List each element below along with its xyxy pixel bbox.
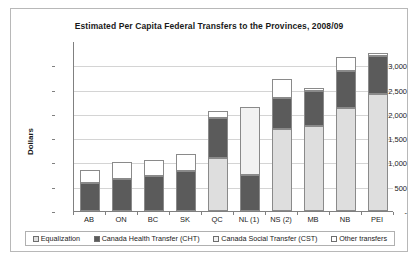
bar-column[interactable]	[336, 41, 356, 211]
bar-segment[interactable]	[240, 107, 260, 175]
bar-segment[interactable]	[240, 175, 260, 211]
bar-segment[interactable]	[144, 176, 164, 211]
x-axis-tick-mark	[105, 212, 106, 215]
bar-segment[interactable]	[208, 111, 228, 118]
y-axis-tick-label: 500	[373, 183, 407, 192]
y-axis-tick-label: 3,000	[373, 62, 407, 71]
x-axis-tick-mark	[297, 212, 298, 215]
bar-segment[interactable]	[176, 171, 196, 211]
y-axis-tick-mark	[52, 139, 55, 140]
legend-item[interactable]: Other transfers	[331, 234, 387, 243]
y-axis-tick-mark	[52, 163, 55, 164]
bar-segment[interactable]	[336, 57, 356, 71]
bar-segment[interactable]	[112, 162, 132, 179]
bar-segment[interactable]	[304, 88, 324, 91]
bar-column[interactable]	[112, 41, 132, 211]
bar-segment[interactable]	[112, 179, 132, 211]
bar-segment[interactable]	[272, 98, 292, 129]
x-axis-tick-mark	[329, 212, 330, 215]
x-axis-tick-mark	[169, 212, 170, 215]
x-axis-tick-mark	[137, 212, 138, 215]
y-axis-tick-label: 1,000	[373, 159, 407, 168]
y-axis-tick-mark	[52, 91, 55, 92]
x-axis-tick-mark	[393, 212, 394, 215]
y-axis-tick-label: 2,500	[373, 86, 407, 95]
y-axis-tick-label: 1,500	[373, 135, 407, 144]
legend-swatch-icon	[213, 236, 219, 242]
x-axis-tick-label: PEI	[355, 215, 399, 224]
bar-column[interactable]	[80, 41, 100, 211]
bar-column[interactable]	[176, 41, 196, 211]
bar-column[interactable]	[240, 41, 260, 211]
plot-area	[73, 42, 393, 212]
bar-column[interactable]	[208, 41, 228, 211]
plot-inner	[74, 42, 393, 211]
bar-segment[interactable]	[144, 160, 164, 177]
bar-segment[interactable]	[304, 126, 324, 211]
x-axis-tick-mark	[73, 212, 74, 215]
bar-segment[interactable]	[368, 53, 388, 55]
y-axis-title: Dollars	[26, 128, 35, 155]
y-axis-tick-label: 2,000	[373, 110, 407, 119]
legend-swatch-icon	[33, 236, 39, 242]
bar-column[interactable]	[272, 41, 292, 211]
bar-column[interactable]	[144, 41, 164, 211]
y-axis-tick-mark	[52, 66, 55, 67]
x-axis-tick-mark	[233, 212, 234, 215]
legend-item[interactable]: Canada Health Transfer (CHT)	[94, 234, 200, 243]
legend-item[interactable]: Canada Social Transfer (CST)	[213, 234, 317, 243]
legend-item-label: Other transfers	[339, 234, 387, 243]
bar-segment[interactable]	[80, 183, 100, 211]
x-axis-tick-mark	[201, 212, 202, 215]
bar-segment[interactable]	[208, 158, 228, 211]
y-axis-tick-mark	[52, 188, 55, 189]
legend-swatch-icon	[331, 236, 337, 242]
x-axis-tick-mark	[265, 212, 266, 215]
bar-segment[interactable]	[176, 154, 196, 171]
chart-title: Estimated Per Capita Federal Transfers t…	[11, 21, 407, 31]
legend-item-label: Equalization	[41, 234, 80, 243]
legend-swatch-icon	[94, 236, 100, 242]
bar-segment[interactable]	[272, 129, 292, 211]
chart-container: Estimated Per Capita Federal Transfers t…	[10, 8, 408, 252]
bar-segment[interactable]	[304, 91, 324, 126]
bar-segment[interactable]	[336, 71, 356, 108]
chart-legend: EqualizationCanada Health Transfer (CHT)…	[25, 231, 395, 246]
bar-segment[interactable]	[336, 108, 356, 211]
legend-item-label: Canada Health Transfer (CHT)	[102, 234, 200, 243]
x-axis-tick-mark	[361, 212, 362, 215]
bar-column[interactable]	[304, 41, 324, 211]
bar-segment[interactable]	[272, 79, 292, 98]
y-axis-tick-mark	[52, 212, 55, 213]
legend-item[interactable]: Equalization	[33, 234, 80, 243]
legend-item-label: Canada Social Transfer (CST)	[221, 234, 317, 243]
bar-segment[interactable]	[208, 118, 228, 157]
y-axis: Dollars	[31, 42, 71, 212]
y-axis-tick-mark	[52, 115, 55, 116]
bar-segment[interactable]	[80, 170, 100, 183]
